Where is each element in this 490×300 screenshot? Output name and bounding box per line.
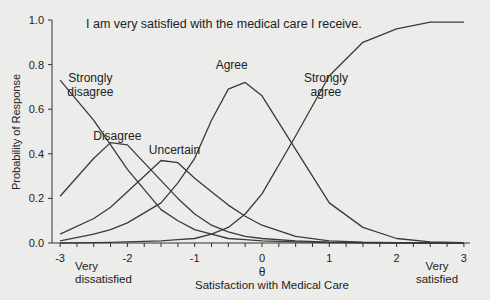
curve-label-strongly-agree: agree [311,85,342,99]
x-tick-label: -2 [123,252,133,264]
curve-label-agree: Agree [216,58,248,72]
x-tick-label: -1 [190,252,200,264]
curve-label-strongly-agree: Strongly [304,71,348,85]
y-tick-label: 1.0 [29,14,44,26]
y-tick-label: 0.6 [29,103,44,115]
x-tick-label: 0 [259,252,265,264]
curve-agree [60,82,464,242]
curve-strongly-disagree [60,80,464,243]
y-axis: 0.00.20.40.60.81.0 [29,14,52,249]
curve-label-strongly-disagree: Strongly [68,71,112,85]
curve-label-strongly-disagree: disagree [67,85,113,99]
chart-title: I am very satisfied with the medical car… [86,17,362,31]
curve-uncertain [60,161,464,244]
x-tick-label: 2 [394,252,400,264]
item-response-chart: I am very satisfied with the medical car… [0,0,490,300]
curve-labels: StronglydisagreeDisagreeUncertainAgreeSt… [67,58,348,157]
curve-label-disagree: Disagree [93,129,141,143]
x-axis-symbol: θ [259,265,266,279]
y-tick-label: 0.2 [29,192,44,204]
x-tick-label: 3 [461,252,467,264]
y-axis-label: Probability of Response [10,74,22,190]
y-tick-label: 0.4 [29,148,44,160]
svg-text:Very: Very [75,260,98,272]
curve-label-uncertain: Uncertain [149,143,200,157]
svg-text:dissatisfied: dissatisfied [75,273,132,285]
high-end-annotation: Very satisfied [416,260,458,285]
y-tick-label: 0.8 [29,59,44,71]
x-tick-label: 1 [326,252,332,264]
svg-text:satisfied: satisfied [416,273,458,285]
y-tick-label: 0.0 [29,237,44,249]
x-tick-label: -3 [55,252,65,264]
x-axis-label: Satisfaction with Medical Care [195,279,349,291]
x-axis: -3-2-10123 [52,243,470,264]
svg-text:Very: Very [425,260,448,272]
